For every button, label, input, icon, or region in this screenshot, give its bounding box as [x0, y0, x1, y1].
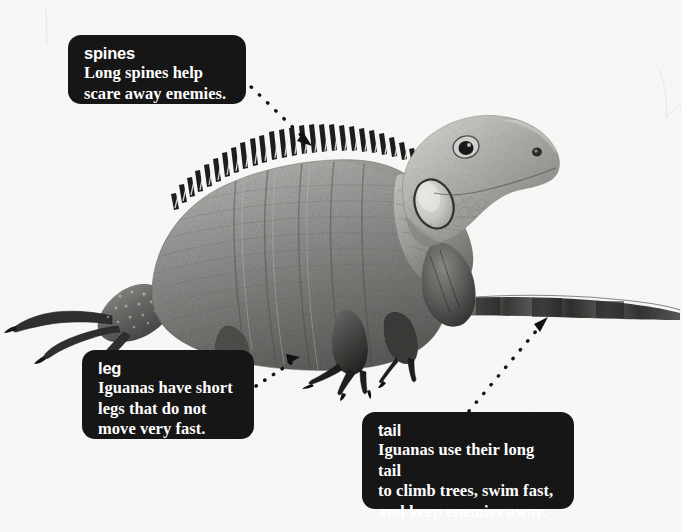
callout-spines[interactable]: spines Long spines help scare away enemi… [68, 35, 246, 104]
callout-tail-heading: tail [378, 421, 560, 439]
iguana-diagram-page: spines Long spines help scare away enemi… [0, 0, 682, 532]
callout-tail[interactable]: tail Iguanas use their long tail to clim… [362, 412, 574, 509]
callout-spines-body: Long spines help scare away enemies. [84, 63, 232, 104]
callout-leg-heading: leg [98, 359, 240, 377]
callout-leg[interactable]: leg Iguanas have short legs that do not … [82, 350, 254, 439]
callout-tail-body: Iguanas use their long tail to climb tre… [378, 440, 560, 522]
callout-leg-body: Iguanas have short legs that do not move… [98, 378, 240, 439]
callout-spines-heading: spines [84, 44, 232, 62]
